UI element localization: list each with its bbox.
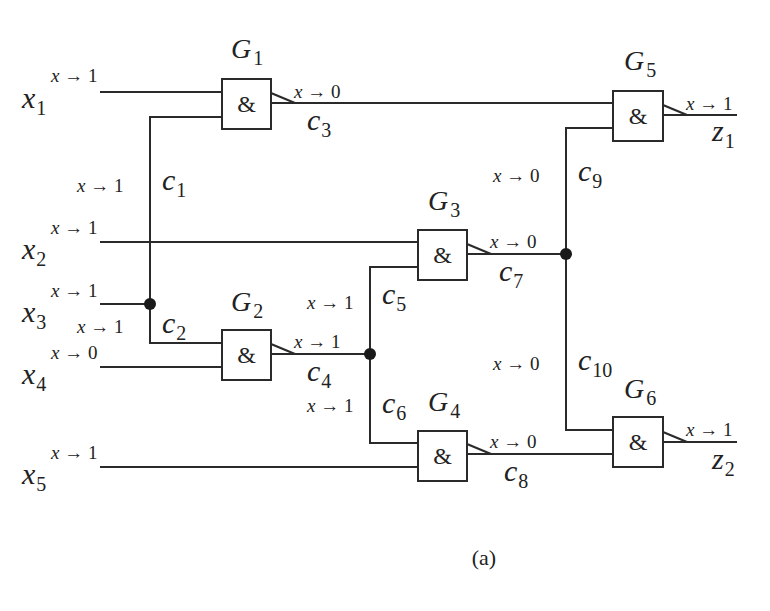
output-mark-g1 [271,93,295,103]
gate-g3: & [418,230,467,280]
fanout-junction-c7 [560,248,572,260]
and-symbol: & [433,443,452,469]
and-symbol: & [629,103,648,129]
annotation-c2: x → 1 [76,316,123,337]
gate-label-g2: G2 [231,286,263,322]
gate-label-g4: G4 [428,386,460,422]
and-symbol: & [433,242,452,268]
gate-g5: & [613,91,663,141]
conn-label-c9: c9 [578,154,602,192]
conn-label-c6: c6 [382,386,406,424]
input-label-x3: x3 [21,295,46,333]
annotation-x4: x → 0 [50,342,97,363]
output-label-z2: z2 [711,442,735,480]
gate-label-g1: G1 [231,33,263,69]
annotation-c9: x → 0 [492,165,539,186]
output-mark-g2 [271,344,295,354]
annotation-z1: x → 1 [685,93,732,114]
input-label-x5: x5 [21,457,46,495]
annotation-c6: x → 1 [306,395,353,416]
output-mark-g3 [467,244,491,254]
conn-label-c10: c10 [578,343,612,381]
output-mark-g4 [467,444,491,454]
annotation-x1: x → 1 [50,65,97,86]
gate-label-g3: G3 [428,185,460,221]
output-mark-g6 [663,432,687,442]
and-symbol: & [629,429,648,455]
conn-label-c7: c7 [499,254,523,292]
output-mark-g5 [663,105,687,115]
output-label-z1: z1 [711,114,735,152]
conn-label-c2: c2 [162,306,186,344]
gate-g6: & [613,417,663,467]
figure-caption: (a) [472,545,496,570]
conn-label-c5: c5 [382,277,406,315]
annotation-c10: x → 0 [492,353,539,374]
gate-g4: & [418,431,467,481]
annotation-x3: x → 1 [50,280,97,301]
and-symbol: & [237,342,256,368]
annotation-c4: x → 1 [293,331,340,352]
gate-g2: & [222,330,271,380]
wire-c1 [150,117,222,304]
wire-c10 [566,254,613,430]
logic-circuit-diagram: & & & & & & G1 G2 G3 G4 G5 G6 x1 x2 x3 x… [0,0,770,611]
annotation-c5: x → 1 [306,292,353,313]
annotation-c8: x → 0 [489,431,536,452]
annotation-z2: x → 1 [685,419,732,440]
conn-label-c1: c1 [162,163,186,201]
fanout-junction-c4 [364,348,376,360]
input-label-x4: x4 [21,357,46,395]
conn-label-c4: c4 [307,354,331,392]
and-symbol: & [237,91,256,117]
fanout-junction-x3 [144,298,156,310]
wire-c9 [566,128,613,254]
conn-label-c8: c8 [504,454,528,492]
gate-g1: & [222,79,271,129]
conn-label-c3: c3 [307,103,331,141]
input-label-x2: x2 [21,232,46,270]
gate-label-g6: G6 [624,373,656,409]
gate-label-g5: G5 [624,45,656,81]
annotation-c7: x → 0 [489,231,536,252]
annotation-x5: x → 1 [50,442,97,463]
input-label-x1: x1 [21,81,46,119]
annotation-c1: x → 1 [76,175,123,196]
annotation-c3: x → 0 [293,81,340,102]
annotation-x2: x → 1 [50,217,97,238]
